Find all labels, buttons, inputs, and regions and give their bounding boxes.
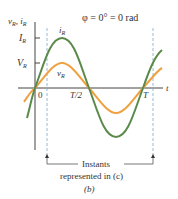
annotation-line1: Instants	[82, 159, 110, 169]
ir-curve-label: iR	[59, 25, 66, 36]
arrow-up-right-icon	[151, 154, 155, 158]
phase-diagram: φ = 0° = 0 rad vR, iR IR VR iR vR 0 T/2 …	[0, 0, 178, 199]
half-period-label: T/2	[70, 90, 83, 100]
period-label: T	[143, 90, 149, 100]
vr-tick-label: VR	[17, 57, 27, 69]
annotation-line2: represented in (c)	[60, 171, 123, 181]
figure-title: φ = 0° = 0 rad	[82, 12, 138, 23]
ir-tick-label: IR	[18, 32, 26, 44]
vr-curve-label: vR	[57, 68, 65, 79]
arrow-up-left-icon	[45, 154, 49, 158]
origin-label: 0	[38, 90, 43, 100]
figure-caption: (b)	[84, 184, 95, 194]
t-axis-label: t	[166, 83, 169, 93]
y-axis-label: vR, iR	[8, 16, 27, 27]
